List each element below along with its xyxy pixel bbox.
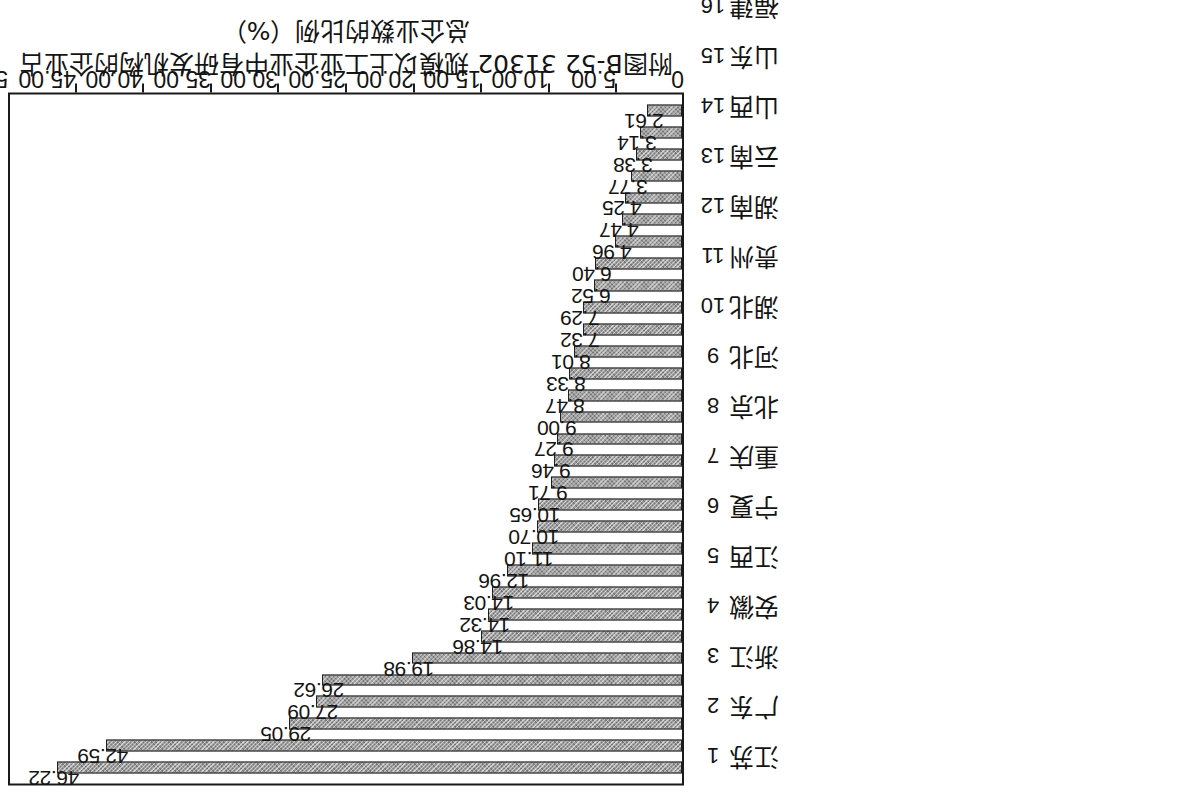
bar-value-label: 7.29 xyxy=(561,307,600,328)
bar-slot: 19.98 xyxy=(10,647,682,669)
category-rank-label: 10 xyxy=(701,288,725,322)
bar-slot: 14.86 xyxy=(10,625,682,647)
bar-value-label: 8.47 xyxy=(545,395,584,416)
category-tick: 6宁夏 xyxy=(684,480,768,530)
rotated-figure-stage: 46.2242.5929.0527.0926.6219.9814.8614.32… xyxy=(0,0,1190,797)
category-tick: 3浙江 xyxy=(684,630,768,680)
bar-slot: 3.77 xyxy=(10,165,682,187)
plot-area: 46.2242.5929.0527.0926.6219.9814.8614.32… xyxy=(8,92,684,785)
bar-value-label: 27.09 xyxy=(287,701,338,722)
bar-slot: 10.65 xyxy=(10,493,682,515)
category-name-label: 北京 xyxy=(729,391,779,419)
bar xyxy=(488,608,682,620)
bar-slot: 3.14 xyxy=(10,121,682,143)
bar xyxy=(106,739,682,751)
bar-slot: 27.09 xyxy=(10,690,682,712)
category-name-label: 河北 xyxy=(729,341,779,369)
bar-value-label: 26.62 xyxy=(294,679,345,700)
bar-value-label: 14.86 xyxy=(453,636,504,657)
category-rank-label: 7 xyxy=(707,438,719,472)
bar-value-label: 3.38 xyxy=(614,154,653,175)
bar xyxy=(57,761,682,773)
caption-line-2: 总企业数的比例（%） xyxy=(19,13,672,46)
category-axis: 1江苏2广东3浙江4安徽5江西6宁夏7重庆8北京9河北10湖北11贵州12湖南1… xyxy=(684,92,768,785)
bar-slot: 9.71 xyxy=(10,471,682,493)
category-tick: 1江苏 xyxy=(684,730,768,780)
category-tick: 14山西 xyxy=(684,80,768,130)
bar-value-label: 10.70 xyxy=(509,526,560,547)
category-name-label: 云南 xyxy=(729,141,779,169)
bar-slot: 26.62 xyxy=(10,668,682,690)
category-name-label: 山东 xyxy=(729,41,779,69)
bar-slot: 14.32 xyxy=(10,603,682,625)
category-rank-label: 12 xyxy=(701,188,725,222)
category-tick: 5江西 xyxy=(684,530,768,580)
category-tick: 4安徽 xyxy=(684,580,768,630)
bar-value-label: 9.71 xyxy=(528,482,567,503)
category-tick: 15山东 xyxy=(684,30,768,80)
category-rank-label: 11 xyxy=(702,238,725,272)
category-tick: 2广东 xyxy=(684,680,768,730)
bar-value-label: 4.47 xyxy=(599,219,638,240)
bar-value-label: 11.10 xyxy=(504,548,553,569)
category-rank-label: 3 xyxy=(707,638,719,672)
bar-slot: 11.10 xyxy=(10,537,682,559)
category-name-label: 湖北 xyxy=(729,291,779,319)
category-rank-label: 1 xyxy=(707,738,719,772)
bar-slot: 3.38 xyxy=(10,143,682,165)
category-rank-label: 4 xyxy=(707,588,719,622)
bar-value-label: 10.65 xyxy=(510,504,561,525)
category-name-label: 安徽 xyxy=(729,591,779,619)
bar xyxy=(481,630,682,642)
category-tick: 7重庆 xyxy=(684,430,768,480)
category-rank-label: 9 xyxy=(707,338,719,372)
category-rank-label: 15 xyxy=(701,38,725,72)
category-tick: 11贵州 xyxy=(684,230,768,280)
category-name-label: 江苏 xyxy=(729,741,779,769)
figure-canvas: 46.2242.5929.0527.0926.6219.9814.8614.32… xyxy=(0,0,1190,797)
caption-line-1: 附图B-52 31302 规模以上工业企业中有研发机构的企业占 xyxy=(19,48,672,77)
category-rank-label: 13 xyxy=(701,138,725,172)
caption-text: 附图B-52 31302 规模以上工业企业中有研发机构的企业占 总企业数的比例（… xyxy=(19,13,672,79)
chart-caption: 附图B-52 31302 规模以上工业企业中有研发机构的企业占 总企业数的比例（… xyxy=(8,0,684,92)
bar-slot: 4.96 xyxy=(10,230,682,252)
category-rank-label: 5 xyxy=(707,538,719,572)
bar-slot: 10.70 xyxy=(10,515,682,537)
bar-value-label: 6.40 xyxy=(573,263,612,284)
bar-slot: 9.27 xyxy=(10,428,682,450)
category-name-label: 贵州 xyxy=(729,241,779,269)
bar-value-label: 7.32 xyxy=(560,329,599,350)
bar-value-label: 29.05 xyxy=(261,723,312,744)
bar-chart-figure: 46.2242.5929.0527.0926.6219.9814.8614.32… xyxy=(0,0,1190,797)
category-tick: 13云南 xyxy=(684,130,768,180)
category-name-label: 江西 xyxy=(729,541,779,569)
bar-value-label: 19.98 xyxy=(384,658,435,679)
bar-slot: 4.25 xyxy=(10,187,682,209)
bar-slot: 4.47 xyxy=(10,208,682,230)
category-rank-label: 16 xyxy=(701,0,725,22)
bar-value-label: 3.77 xyxy=(608,176,647,197)
bar xyxy=(316,695,682,707)
category-name-label: 宁夏 xyxy=(729,491,779,519)
category-tick: 9河北 xyxy=(684,330,768,380)
category-rank-label: 2 xyxy=(707,688,719,722)
category-name-label: 重庆 xyxy=(729,441,779,469)
bar-value-label: 42.59 xyxy=(78,745,129,766)
category-name-label: 湖南 xyxy=(729,191,779,219)
bar-slot: 14.03 xyxy=(10,581,682,603)
bar-slot: 9.46 xyxy=(10,449,682,471)
category-name-label: 广东 xyxy=(729,691,779,719)
bar xyxy=(289,717,682,729)
category-tick: 12湖南 xyxy=(684,180,768,230)
bar-value-label: 3.14 xyxy=(617,132,656,153)
category-tick: 8北京 xyxy=(684,380,768,430)
category-name-label: 福建 xyxy=(729,0,779,19)
value-axis-tick-label: 50.00 xyxy=(0,67,8,90)
category-tick: 16福建 xyxy=(684,0,768,30)
category-name-label: 山西 xyxy=(729,91,779,119)
bar-slot: 2.61 xyxy=(10,99,682,121)
bar xyxy=(322,674,682,686)
bar-value-label: 2.61 xyxy=(624,110,663,131)
bar-value-label: 14.32 xyxy=(460,614,511,635)
bar-value-label: 9.00 xyxy=(538,417,577,438)
